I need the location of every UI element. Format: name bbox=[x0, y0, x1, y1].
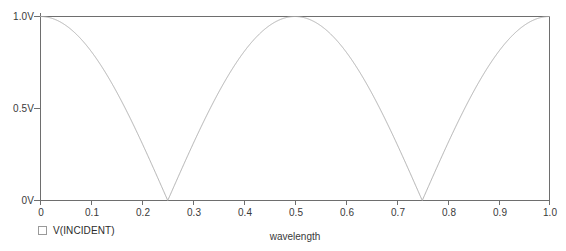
x-tick-label-0-7: 0.7 bbox=[383, 207, 413, 218]
clipped-footer-text bbox=[6, 244, 8, 251]
x-tick-label-0-3: 0.3 bbox=[179, 207, 209, 218]
x-tick-label-0-4: 0.4 bbox=[230, 207, 260, 218]
x-tick-label-0-9: 0.9 bbox=[485, 207, 515, 218]
y-axis-ticks bbox=[34, 17, 40, 201]
x-tick-label-1-0: 1.0 bbox=[535, 207, 565, 218]
x-tick-label-0-6: 0.6 bbox=[332, 207, 362, 218]
x-tick-label-0-2: 0.2 bbox=[128, 207, 158, 218]
legend-square-icon bbox=[38, 226, 47, 235]
y-tick-label-1v: 1.0V bbox=[0, 11, 34, 22]
x-tick-label-0-5: 0.5 bbox=[281, 207, 311, 218]
y-tick-label-0-5v: 0.5V bbox=[0, 103, 34, 114]
legend[interactable]: V(INCIDENT) bbox=[38, 225, 115, 236]
waveform-plot: 1.0V 0.5V 0V 0 0.1 0.2 0.3 0.4 0.5 0.6 0… bbox=[0, 0, 566, 251]
x-tick-label-0: 0 bbox=[26, 207, 56, 218]
trace-v-incident bbox=[41, 17, 550, 201]
legend-label-v-incident: V(INCIDENT) bbox=[53, 225, 115, 236]
x-tick-label-0-1: 0.1 bbox=[77, 207, 107, 218]
y-tick-label-0v: 0V bbox=[0, 195, 34, 206]
x-axis-title: wavelength bbox=[225, 231, 365, 242]
x-tick-label-0-8: 0.8 bbox=[434, 207, 464, 218]
